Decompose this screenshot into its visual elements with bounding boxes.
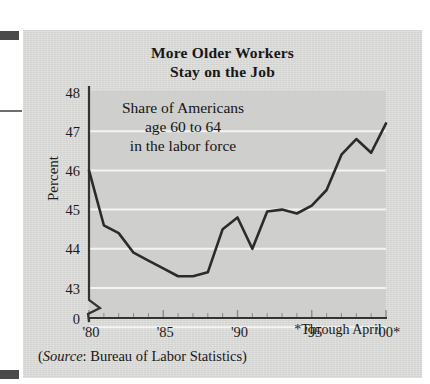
chart-title-line-2: Stay on the Job: [23, 62, 422, 81]
page-edge-mark-middle: [0, 110, 22, 112]
figure-root: More Older Workers Stay on the Job Perce…: [0, 0, 430, 384]
page-edge-mark-top: [0, 31, 19, 40]
page-edge-mark-bottom: [0, 370, 19, 379]
y-tick-label: 44: [66, 241, 81, 257]
chart-footnote: *Through April: [263, 322, 413, 338]
x-tick-label: '80: [82, 324, 99, 340]
annotation-line-1: Share of Americans: [83, 98, 283, 117]
annotation-line-3: in the labor force: [83, 136, 283, 155]
y-tick-label: 48: [66, 85, 81, 101]
annotation-line-2: age 60 to 64: [83, 117, 283, 136]
y-tick-label: 47: [66, 124, 81, 140]
chart-title: More Older Workers Stay on the Job: [23, 43, 422, 81]
source-text: : Bureau of Labor Statistics): [83, 348, 247, 364]
y-axis-label: Percent: [45, 129, 62, 229]
chart-title-line-1: More Older Workers: [23, 43, 422, 62]
chart-annotation: Share of Americans age 60 to 64 in the l…: [83, 98, 283, 155]
x-tick-label: '90: [231, 324, 248, 340]
chart-source: (Source: Bureau of Labor Statistics): [38, 348, 247, 365]
y-axis-origin-label: 0: [73, 311, 80, 327]
x-tick-label: '85: [157, 324, 174, 340]
y-axis-tick-labels: 4344454647480: [66, 85, 81, 327]
source-label: Source: [43, 348, 83, 364]
chart-panel: More Older Workers Stay on the Job Perce…: [23, 30, 422, 378]
y-tick-label: 46: [66, 163, 81, 179]
y-tick-label: 43: [66, 281, 81, 297]
y-tick-label: 45: [66, 202, 81, 218]
